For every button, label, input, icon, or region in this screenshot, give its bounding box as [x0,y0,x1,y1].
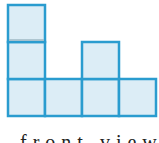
square-cell [82,42,119,79]
square-stack-diagram [0,0,159,143]
square-cell [8,5,45,42]
square-cell [8,79,45,116]
diagram-caption: front view [0,131,159,143]
square-cell [119,79,156,116]
square-cell [45,79,82,116]
square-cell [8,42,45,79]
square-cell [82,79,119,116]
